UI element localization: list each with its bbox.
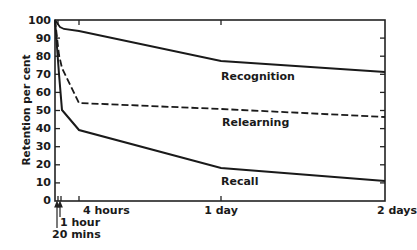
plot-frame	[55, 20, 385, 201]
y-tick-40: 40	[36, 122, 52, 135]
y-tick-10: 10	[36, 176, 52, 189]
y-tick-70: 70	[36, 68, 52, 81]
label-recognition: Recognition	[221, 70, 295, 83]
x-ticks	[58, 20, 221, 201]
y-tick-100: 100	[28, 14, 51, 27]
label-relearning: Relearning	[222, 116, 289, 129]
y-tick-90: 90	[36, 32, 52, 45]
y-tick-60: 60	[36, 86, 52, 99]
y-tick-30: 30	[36, 140, 52, 153]
x-tick-20mins: 20 mins	[52, 228, 101, 241]
y-axis-label: Retention per cent	[20, 54, 32, 165]
retention-chart: 0 10 20 30 40 50 60 70 80 90 100 Retenti…	[0, 0, 417, 250]
x-tick-1day: 1 day	[204, 204, 238, 217]
y-tick-80: 80	[36, 50, 52, 63]
y-tick-20: 20	[36, 158, 52, 171]
y-tick-0: 0	[43, 194, 51, 207]
label-recall: Recall	[221, 175, 258, 188]
x-tick-2days: 2 days	[377, 204, 417, 217]
y-tick-50: 50	[36, 104, 52, 117]
series-recall	[55, 20, 385, 181]
series-recognition	[55, 20, 385, 72]
